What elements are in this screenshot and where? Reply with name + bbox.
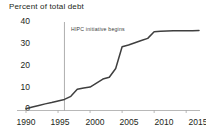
x-axis-tick-label-2000: 2000 <box>78 118 112 127</box>
x-axis-tick-label-2015: 2015 <box>181 118 206 127</box>
x-axis-tick-label-2005: 2005 <box>112 118 146 127</box>
data-line-series-0 <box>26 30 199 108</box>
x-axis-tick-label-2010: 2010 <box>147 118 181 127</box>
chart-figure: Percent of total debt 40 30 20 10 0 HIPC… <box>0 0 206 131</box>
x-axis-tick-marks <box>26 111 186 114</box>
plot-area <box>0 0 206 131</box>
x-axis-tick-label-1990: 1990 <box>9 118 43 127</box>
x-axis-tick-label-1995: 1995 <box>43 118 77 127</box>
